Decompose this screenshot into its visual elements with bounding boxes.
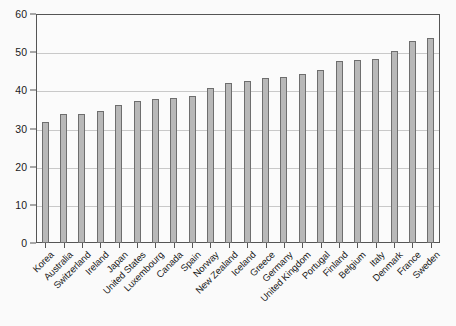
bar xyxy=(78,114,85,243)
bar xyxy=(60,114,67,243)
y-tick-label: 50 xyxy=(15,46,27,58)
bar xyxy=(409,41,416,243)
y-tick-label: 30 xyxy=(15,123,27,135)
x-tick-mark xyxy=(247,243,248,248)
bar xyxy=(152,99,159,243)
x-tick-mark xyxy=(321,243,322,248)
x-tick-mark xyxy=(100,243,101,248)
x-tick-mark xyxy=(339,243,340,248)
bar xyxy=(134,101,141,243)
y-tick-label: 20 xyxy=(15,161,27,173)
y-tick-label: 40 xyxy=(15,84,27,96)
bar xyxy=(97,111,104,243)
bar xyxy=(225,83,232,243)
y-tick-label: 0 xyxy=(21,237,27,249)
bar xyxy=(262,78,269,243)
bar xyxy=(115,105,122,243)
bar xyxy=(244,81,251,243)
x-tick-mark xyxy=(229,243,230,248)
x-tick-mark xyxy=(155,243,156,248)
bar xyxy=(280,77,287,243)
bar xyxy=(42,122,49,243)
bar xyxy=(317,70,324,243)
bar xyxy=(170,98,177,243)
bar xyxy=(391,51,398,243)
bar xyxy=(207,88,214,243)
bar xyxy=(299,74,306,243)
x-tick-mark xyxy=(302,243,303,248)
x-tick-mark xyxy=(266,243,267,248)
bar-chart: 0102030405060 KoreaAustraliaSwitzerlandI… xyxy=(0,0,456,326)
bar xyxy=(372,59,379,243)
x-tick-mark xyxy=(174,243,175,248)
y-tick-label: 10 xyxy=(15,199,27,211)
bar xyxy=(427,38,434,243)
x-tick-mark xyxy=(431,243,432,248)
bar xyxy=(354,60,361,243)
x-tick-mark xyxy=(394,243,395,248)
x-tick-mark xyxy=(82,243,83,248)
y-axis: 0102030405060 xyxy=(0,0,36,243)
x-tick-mark xyxy=(412,243,413,248)
x-tick-mark xyxy=(192,243,193,248)
x-axis-labels: KoreaAustraliaSwitzerlandIrelandJapanUni… xyxy=(36,249,440,326)
x-tick-mark xyxy=(357,243,358,248)
x-tick-mark xyxy=(210,243,211,248)
bars-container xyxy=(36,14,440,243)
x-tick-mark xyxy=(119,243,120,248)
bar xyxy=(189,96,196,243)
y-tick-label: 60 xyxy=(15,8,27,20)
x-tick-mark xyxy=(284,243,285,248)
x-tick-mark xyxy=(64,243,65,248)
x-tick-mark xyxy=(45,243,46,248)
x-tick-mark xyxy=(376,243,377,248)
bar xyxy=(336,61,343,243)
x-tick-mark xyxy=(137,243,138,248)
